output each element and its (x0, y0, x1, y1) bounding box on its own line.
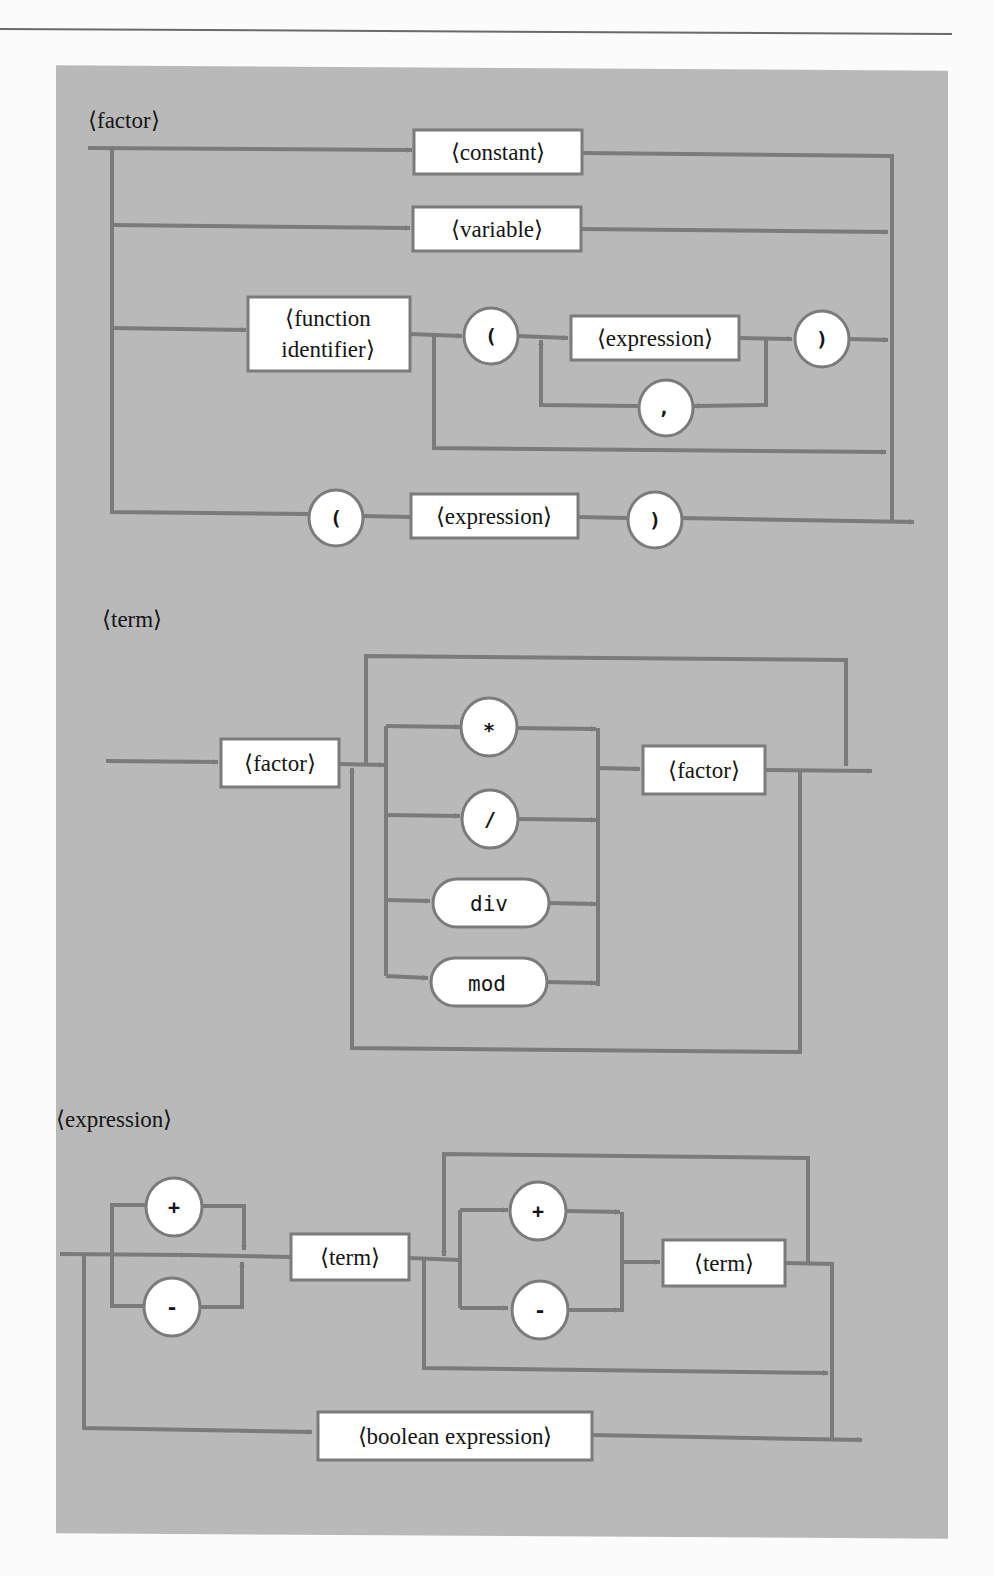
factor-title: ⟨factor⟩ (88, 108, 160, 133)
expression-arg-label: ⟨expression⟩ (597, 326, 713, 351)
binary-minus-label: - (534, 1298, 546, 1322)
expression-diagram: ⟨expression⟩ + - ⟨term⟩ ⟨boolean express… (56, 1107, 862, 1460)
unary-minus-label: - (166, 1295, 178, 1319)
close-paren-label: ) (816, 327, 828, 351)
term-second-factor-label: ⟨factor⟩ (668, 758, 740, 783)
open-paren-label: ( (485, 324, 497, 348)
expression-title: ⟨expression⟩ (56, 1107, 172, 1132)
expression-second-term-label: ⟨term⟩ (694, 1251, 754, 1276)
divide-label: / (484, 807, 496, 831)
div-label: div (470, 892, 508, 916)
unary-plus-label: + (168, 1195, 180, 1219)
function-identifier-label-line2: identifier⟩ (281, 337, 374, 362)
variable-label: ⟨variable⟩ (451, 217, 543, 242)
term-first-factor-label: ⟨factor⟩ (244, 751, 316, 776)
boolean-expression-label: ⟨boolean expression⟩ (358, 1424, 553, 1449)
expression-first-term-label: ⟨term⟩ (320, 1245, 380, 1270)
comma-label: , (658, 395, 670, 419)
term-title: ⟨term⟩ (102, 607, 162, 632)
binary-plus-label: + (532, 1199, 544, 1223)
constant-label: ⟨constant⟩ (451, 140, 546, 165)
function-identifier-label-line1: ⟨function (285, 306, 371, 331)
group-close-paren-label: ) (649, 508, 661, 532)
group-open-paren-label: ( (330, 506, 342, 530)
syntax-diagrams: ⟨factor⟩ ⟨constant⟩ ⟨variable⟩ ⟨function… (0, 0, 994, 1576)
factor-diagram: ⟨factor⟩ ⟨constant⟩ ⟨variable⟩ ⟨function… (88, 108, 914, 548)
multiply-label: * (483, 718, 495, 742)
term-diagram: ⟨term⟩ ⟨factor⟩ * / div mod ⟨fac (102, 607, 872, 1052)
mod-label: mod (468, 972, 506, 996)
group-expression-label: ⟨expression⟩ (436, 504, 552, 529)
